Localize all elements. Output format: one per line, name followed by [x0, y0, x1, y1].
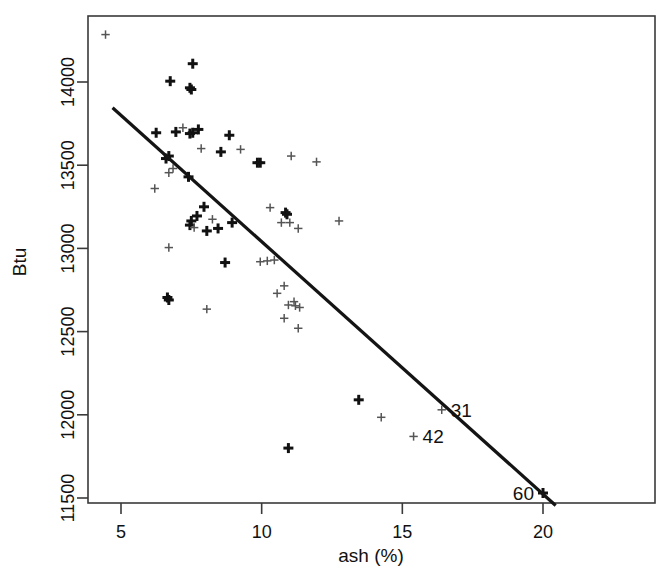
data-points	[101, 30, 548, 498]
data-point-marker	[282, 209, 292, 219]
y-axis-ticks: 115001200012500130001350014000	[58, 57, 88, 522]
data-point-marker	[294, 324, 302, 332]
data-point-marker	[151, 128, 161, 138]
x-tick-label: 5	[116, 522, 126, 542]
data-point-marker	[236, 145, 244, 153]
regression-line	[113, 108, 556, 506]
data-point-marker	[295, 303, 303, 311]
data-point-marker	[266, 203, 274, 211]
data-point-label: 31	[451, 400, 472, 421]
y-tick-label: 13000	[58, 223, 78, 273]
data-point-marker	[354, 395, 364, 405]
data-point-marker	[101, 30, 109, 38]
data-point-marker	[280, 314, 288, 322]
point-labels: 314260	[423, 400, 534, 504]
y-tick-label: 14000	[58, 57, 78, 107]
scatter-plot-figure: 5101520 115001200012500130001350014000 3…	[0, 0, 671, 586]
data-point-marker	[199, 202, 209, 212]
data-point-marker	[216, 147, 226, 157]
x-tick-label: 20	[533, 522, 553, 542]
data-point-marker	[277, 218, 285, 226]
regression-line-path	[113, 108, 556, 506]
x-axis-ticks: 5101520	[116, 503, 553, 542]
data-point-marker	[335, 217, 343, 225]
data-point-marker	[291, 302, 299, 310]
data-point-marker	[165, 243, 173, 251]
data-point-marker	[151, 184, 159, 192]
data-point-label: 60	[513, 483, 534, 504]
data-point-marker	[273, 289, 281, 297]
data-point-marker	[213, 223, 223, 233]
plot-border	[88, 16, 655, 503]
data-point-marker	[202, 226, 212, 236]
y-tick-label: 13500	[58, 140, 78, 190]
data-point-marker	[263, 257, 271, 265]
data-point-marker	[256, 258, 264, 266]
x-axis-label: ash (%)	[338, 545, 403, 566]
data-point-marker	[294, 224, 302, 232]
y-tick-label: 12000	[58, 390, 78, 440]
data-point-marker	[186, 84, 196, 94]
data-point-marker	[197, 144, 205, 152]
x-tick-label: 15	[392, 522, 412, 542]
data-point-marker	[203, 305, 211, 313]
y-tick-label: 11500	[58, 474, 78, 523]
data-point-marker	[283, 443, 293, 453]
data-point-marker	[165, 168, 173, 176]
y-axis-label: Btu	[9, 248, 30, 277]
plot-frame	[88, 16, 655, 503]
x-tick-label: 10	[252, 522, 272, 542]
data-point-marker	[208, 215, 216, 223]
data-point-marker	[165, 76, 175, 86]
y-tick-label: 12500	[58, 307, 78, 357]
data-point-marker	[188, 59, 198, 69]
data-point-marker	[280, 282, 288, 290]
data-point-marker	[312, 158, 320, 166]
data-point-marker	[287, 152, 295, 160]
data-point-marker	[224, 130, 234, 140]
data-point-label: 42	[423, 426, 444, 447]
data-point-marker	[377, 413, 385, 421]
data-point-marker	[286, 218, 294, 226]
data-point-marker	[220, 258, 230, 268]
data-point-marker	[409, 432, 417, 440]
plot-canvas: 5101520 115001200012500130001350014000 3…	[0, 0, 671, 586]
